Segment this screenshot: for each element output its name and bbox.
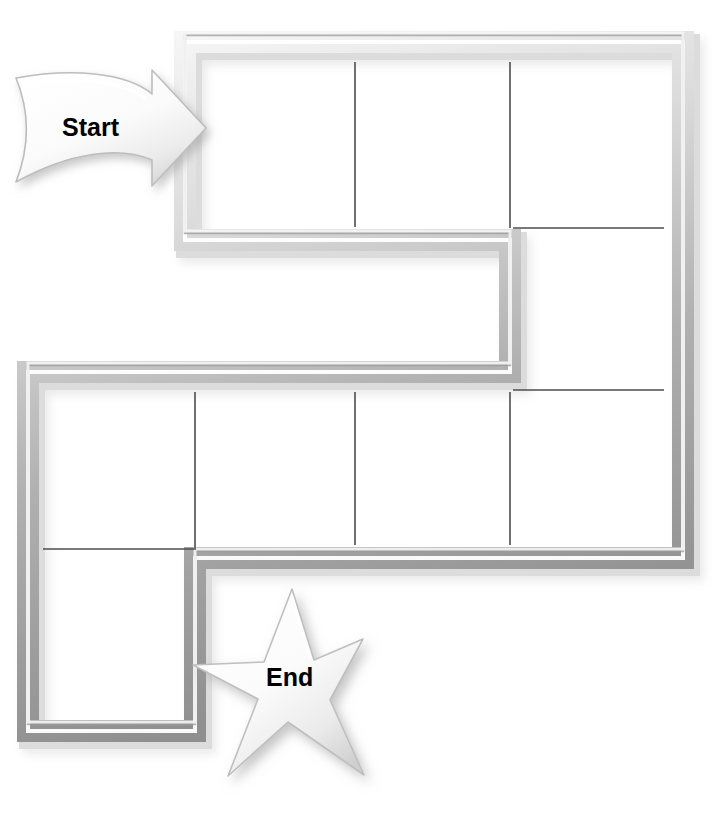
end-label: End [266,663,313,692]
board-canvas: Start End [0,0,723,818]
start-label: Start [62,113,119,142]
